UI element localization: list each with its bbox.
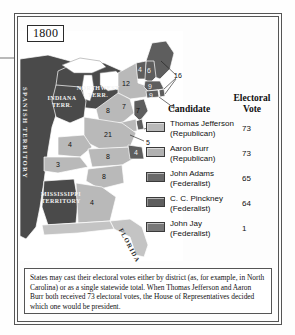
- legend-name-jay: John Jay: [170, 219, 242, 229]
- caption-text: States may cast their electoral votes ei…: [30, 273, 266, 311]
- legend: Candidate Electoral Vote Thomas Jefferso…: [146, 93, 274, 244]
- vote-number-virginia: 21: [104, 131, 112, 138]
- legend-row-adams: John Adams (Federalist) 65: [146, 169, 274, 190]
- legend-swatch-burr: [146, 147, 165, 157]
- legend-name-pinckney: C. C. Pinckney: [170, 194, 242, 204]
- vote-number-georgia: 4: [90, 199, 94, 206]
- vote-number-pennsylvania: 8: [106, 107, 110, 114]
- electoral-map-figure: 1800: [0, 0, 295, 335]
- legend-votes-pinckney: 64: [242, 199, 266, 208]
- vote-number-kentucky: 4: [68, 141, 72, 148]
- legend-swatch-jay: [146, 222, 165, 232]
- vote-number-new-jersey: 7: [136, 107, 140, 114]
- figure-content: 1800: [18, 17, 278, 321]
- mississippi-territory-label: MISSISSIPPITERRITORY: [38, 191, 84, 205]
- vote-number-massachusetts: 9: [148, 83, 152, 90]
- legend-party-burr: (Republican): [170, 154, 242, 164]
- legend-party-pinckney: (Federalist): [170, 204, 242, 214]
- legend-votes-jefferson: 73: [242, 124, 266, 133]
- legend-party-jay: (Federalist): [170, 229, 242, 239]
- caption-box: States may cast their electoral votes ei…: [24, 268, 272, 314]
- legend-row-burr: Aaron Burr (Republican) 73: [146, 144, 274, 165]
- legend-name-burr: Aaron Burr: [170, 144, 242, 154]
- vote-number-new-york: 12: [122, 80, 130, 87]
- legend-header-electoral: Electoral: [234, 93, 271, 103]
- legend-votes-adams: 65: [242, 174, 266, 183]
- vote-number-tennessee: 3: [56, 161, 60, 168]
- year-label-box: 1800: [27, 25, 64, 42]
- legend-name-adams: John Adams: [170, 169, 242, 179]
- legend-votes-burr: 73: [242, 149, 266, 158]
- legend-row-jay: John Jay (Federalist) 1: [146, 219, 274, 240]
- vote-number-maine: 16: [174, 72, 182, 79]
- legend-header-candidate: Candidate: [168, 104, 210, 114]
- legend-votes-jay: 1: [242, 224, 266, 233]
- legend-header-vote: Vote: [243, 104, 261, 114]
- legend-swatch-jefferson: [146, 122, 165, 132]
- legend-row-pinckney: C. C. Pinckney (Federalist) 64: [146, 194, 274, 215]
- vote-number-ohio-region: 7: [122, 103, 126, 110]
- legend-swatch-adams: [146, 172, 165, 182]
- indiana-territory-label: INDIANATERR.: [42, 95, 82, 109]
- legend-party-jefferson: (Republican): [170, 129, 242, 139]
- margin-tick: [0, 57, 14, 59]
- legend-swatch-pinckney: [146, 197, 165, 207]
- vote-number-new-hampshire: 6: [147, 67, 151, 74]
- year-label: 1800: [33, 27, 58, 40]
- legend-header-electoral-vote: Electoral Vote: [231, 93, 273, 115]
- legend-party-adams: (Federalist): [170, 179, 242, 189]
- vote-number-vermont: 4: [138, 66, 142, 73]
- legend-header: Candidate Electoral Vote: [146, 93, 274, 119]
- legend-row-jefferson: Thomas Jefferson (Republican) 73: [146, 119, 274, 140]
- spanish-territory-label: SPANISH TERRITORY: [22, 87, 29, 179]
- vote-number-south-carolina: 8: [102, 173, 106, 180]
- vote-number-north-carolina-federalist: 4: [134, 149, 138, 156]
- legend-name-jefferson: Thomas Jefferson: [170, 119, 242, 129]
- vote-number-north-carolina: 8: [106, 153, 110, 160]
